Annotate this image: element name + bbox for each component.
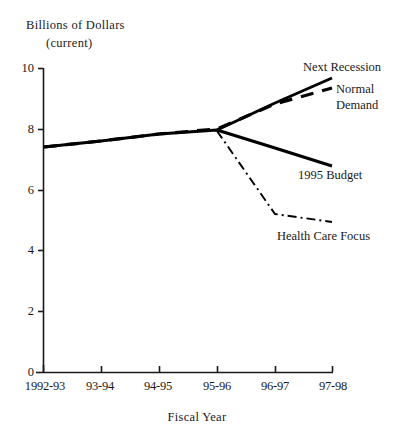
series-line-1995-budget xyxy=(44,130,332,166)
series-label-normal-demand: Normal Demand xyxy=(336,82,378,113)
x-axis-title: Fiscal Year xyxy=(0,410,394,425)
series-label-normal-demand-line-2: Demand xyxy=(336,98,378,114)
series-line-next-recession xyxy=(217,78,332,130)
axes-group xyxy=(36,68,333,373)
series-label-normal-demand-line-1: Normal xyxy=(336,82,378,98)
series-label-health-care-focus: Health Care Focus xyxy=(277,229,370,245)
series-label-next-recession: Next Recession xyxy=(303,60,381,76)
chart-figure: Billions of Dollars (current) 0 2 4 6 8 … xyxy=(0,0,394,443)
series-label-1995-budget: 1995 Budget xyxy=(298,168,362,184)
